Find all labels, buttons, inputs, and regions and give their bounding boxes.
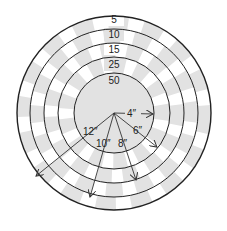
radius-label-10: 10″: [96, 138, 111, 149]
radius-label-6: 6″: [133, 125, 143, 136]
score-label-50: 50: [108, 75, 120, 86]
radius-label-12: 12″: [83, 126, 98, 137]
target-diagram: 5 10 15 25 50 4″ 6″ 8″ 10″ 12″: [0, 0, 227, 231]
score-label-5: 5: [111, 14, 117, 25]
radius-label-8: 8″: [118, 138, 128, 149]
score-label-25: 25: [108, 59, 120, 70]
score-label-10: 10: [108, 29, 120, 40]
score-label-15: 15: [108, 44, 120, 55]
radius-label-4: 4″: [127, 108, 137, 119]
